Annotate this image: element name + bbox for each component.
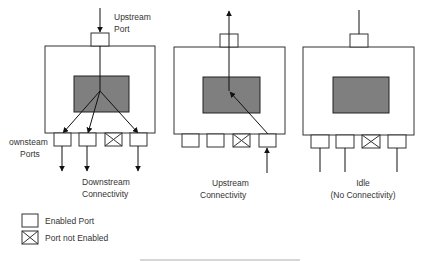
diagram-caption: Idle [356, 178, 370, 188]
upstream-port [350, 34, 368, 47]
port-enabled [311, 135, 329, 148]
upstream-port-label: Upstream [114, 12, 151, 22]
diagram-caption: Connectivity [200, 190, 247, 200]
diagram-caption: Downstream [82, 177, 130, 187]
legend-disabled-port-icon [22, 231, 38, 244]
port-disabled [362, 135, 380, 148]
port-enabled [130, 133, 147, 146]
legend-enabled-label: Enabled Port [45, 216, 95, 226]
port-enabled [336, 135, 354, 148]
diagram-caption: Upstream [212, 178, 249, 188]
downstream-ports-label: ownsteam [9, 137, 48, 147]
legend: Enabled Port Port not Enabled [22, 214, 109, 244]
upstream-port [91, 33, 109, 46]
diagram-downstream: Upstream Port ownsteam Ports Downstream … [9, 8, 155, 199]
port-enabled [388, 135, 406, 148]
connectivity-diagram: Upstream Port ownsteam Ports Downstream … [0, 0, 424, 261]
port-enabled [54, 133, 71, 146]
switch-chip [203, 77, 260, 113]
downstream-ports-label: Ports [20, 149, 40, 159]
port-enabled [207, 134, 224, 147]
diagram-upstream: Upstream Connectivity [174, 11, 285, 200]
legend-enabled-port-icon [22, 214, 38, 227]
port-enabled [79, 133, 96, 146]
switch-chip [333, 77, 389, 113]
switch-chip [74, 76, 129, 112]
port-enabled [259, 134, 276, 147]
diagram-caption: (No Connectivity) [330, 190, 395, 200]
upstream-port-label: Port [114, 24, 130, 34]
port-disabled [105, 133, 122, 146]
diagram-caption: Connectivity [82, 189, 129, 199]
port-enabled [182, 134, 199, 147]
port-disabled [233, 134, 250, 147]
legend-disabled-label: Port not Enabled [45, 233, 109, 243]
diagram-idle: Idle (No Connectivity) [303, 10, 414, 200]
